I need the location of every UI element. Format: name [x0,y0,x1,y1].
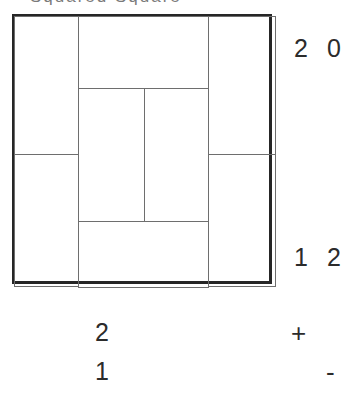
label-below-first: 2 [95,320,109,345]
cell-center-mid-left [78,88,145,222]
squared-square-diagram [12,14,272,284]
label-below-second: 1 [95,359,109,384]
cell-center-bottom [78,221,209,288]
cell-left-lower [14,154,79,287]
label-top-right-first: 2 [294,36,308,61]
label-bottom-right-second: 2 [327,245,341,270]
cell-center-mid-right [144,88,209,222]
label-bottom-right-first: 1 [294,245,308,270]
operator-plus-icon: + [291,320,306,346]
label-top-right-second: 0 [327,36,341,61]
figure-canvas: Squared Square 2 0 1 2 2 1 + - [0,0,360,395]
cell-right-lower [208,154,276,287]
cell-right-upper [208,16,276,155]
operator-minus-icon: - [326,359,335,385]
cell-left-upper [14,16,79,155]
cell-center-top [78,16,209,89]
clipped-caption-text: Squared Square [30,0,270,5]
